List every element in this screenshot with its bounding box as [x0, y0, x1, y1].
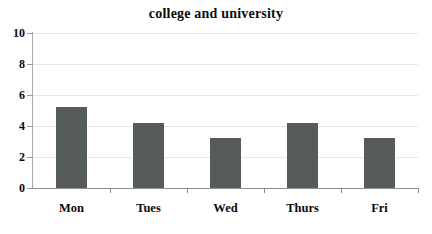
x-tick-4	[418, 188, 419, 193]
y-axis-label-8: 8	[1, 58, 25, 70]
x-axis-label-thurs: Thurs	[263, 201, 343, 216]
x-tick-2	[264, 188, 265, 193]
y-axis-label-4: 4	[1, 120, 25, 132]
x-axis-label-wed: Wed	[186, 201, 266, 216]
gridline-y-8	[33, 64, 418, 65]
bar-chart: college and university 0246810 MonTuesWe…	[0, 0, 432, 234]
x-axis-label-mon: Mon	[32, 201, 112, 216]
x-tick-1	[187, 188, 188, 193]
gridline-y-10	[33, 33, 418, 34]
chart-title: college and university	[0, 6, 432, 22]
y-tick-2	[27, 157, 33, 158]
bar-wed	[210, 138, 241, 188]
gridline-y-4	[33, 126, 418, 127]
y-tick-6	[27, 95, 33, 96]
bar-fri	[364, 138, 395, 188]
gridline-y-0	[33, 188, 418, 189]
x-axis-label-tues: Tues	[109, 201, 189, 216]
y-axis-label-10: 10	[1, 27, 25, 39]
y-axis-tick-labels: 0246810	[0, 0, 25, 234]
x-tick-3	[341, 188, 342, 193]
x-tick-0	[110, 188, 111, 193]
y-tick-4	[27, 126, 33, 127]
bar-tues	[133, 123, 164, 188]
y-axis-label-0: 0	[1, 182, 25, 194]
bar-thurs	[287, 123, 318, 188]
y-axis-label-6: 6	[1, 89, 25, 101]
y-tick-8	[27, 64, 33, 65]
x-axis-label-fri: Fri	[340, 201, 420, 216]
plot-area	[33, 33, 418, 188]
gridline-y-6	[33, 95, 418, 96]
x-axis-tick-labels: MonTuesWedThursFri	[33, 201, 418, 223]
y-axis-label-2: 2	[1, 151, 25, 163]
y-tick-0	[27, 188, 33, 189]
bar-mon	[56, 107, 87, 188]
y-tick-10	[27, 33, 33, 34]
